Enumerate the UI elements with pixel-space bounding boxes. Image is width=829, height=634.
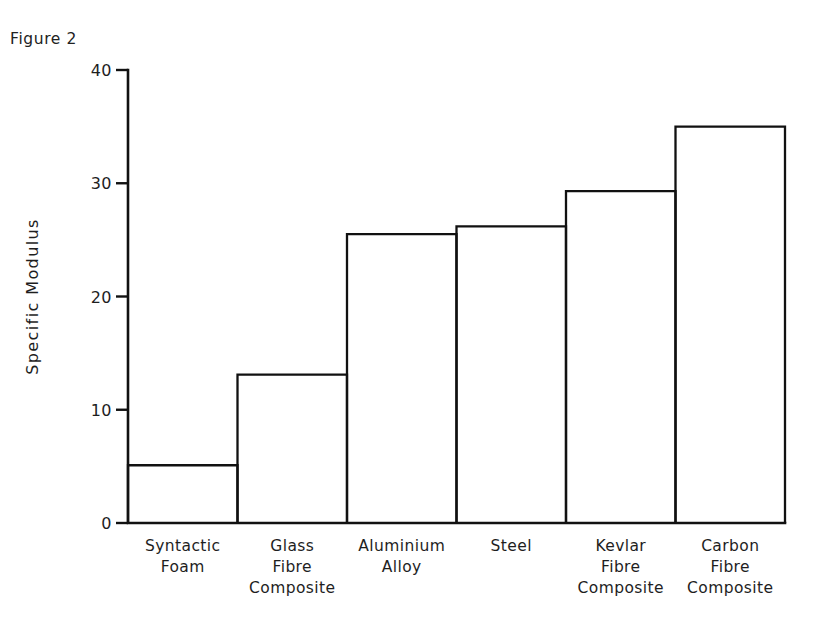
y-tick-label: 0	[101, 514, 112, 533]
figure-title: Figure 2	[10, 30, 77, 48]
y-tick-label: 10	[91, 401, 112, 420]
x-axis-category-label: Foam	[161, 558, 205, 576]
x-axis-category-label: Carbon	[701, 537, 759, 555]
x-axis-category-label: Glass	[270, 537, 314, 555]
y-tick-label: 40	[91, 61, 112, 80]
x-axis-category-label: Kevlar	[595, 537, 646, 555]
figure-container: Figure 2 Specific Modulus 010203040 Synt…	[0, 0, 829, 634]
x-axis-category-label: Steel	[491, 537, 532, 555]
x-axis-category-label: Syntactic	[145, 537, 220, 555]
x-axis-category-label: Composite	[687, 579, 773, 597]
y-tick-label: 20	[91, 288, 112, 307]
bar-chart: Figure 2 Specific Modulus 010203040 Synt…	[0, 0, 829, 634]
y-tick-label: 30	[91, 174, 112, 193]
x-axis-category-label: Composite	[578, 579, 664, 597]
x-axis-category-label: Composite	[249, 579, 335, 597]
x-axis-category-label: Fibre	[601, 558, 641, 576]
x-axis-category-label: Aluminium	[358, 537, 445, 555]
x-axis-category-label: Fibre	[710, 558, 750, 576]
x-axis-category-label: Alloy	[382, 558, 422, 576]
y-axis-title: Specific Modulus	[23, 218, 42, 375]
x-axis-category-label: Fibre	[272, 558, 312, 576]
